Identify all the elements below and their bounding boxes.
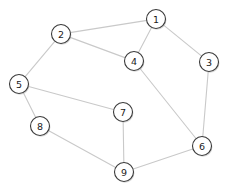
graph-diagram: 123456789 [0,0,228,193]
graph-node[interactable]: 8 [31,117,51,137]
graph-node[interactable]: 6 [193,137,213,157]
graph-edge [48,130,116,167]
node-circle[interactable] [31,117,50,136]
graph-node[interactable]: 9 [115,163,135,183]
graph-edge [25,41,55,77]
node-circle[interactable] [200,53,219,72]
node-circle[interactable] [125,52,144,71]
node-circle[interactable] [114,103,133,122]
graph-node[interactable]: 4 [125,52,145,72]
node-circle[interactable] [193,137,212,156]
edges-layer [23,20,208,169]
node-circle[interactable] [10,75,29,94]
graph-edge [23,92,36,118]
graph-edge [123,121,124,163]
graph-edge [138,27,152,53]
graph-node[interactable]: 1 [147,10,167,30]
graph-edge [69,37,125,58]
nodes-layer: 123456789 [10,10,220,183]
node-circle[interactable] [147,10,166,29]
graph-node[interactable]: 7 [114,103,134,123]
graph-edge [140,68,197,139]
graph-edge [70,20,147,32]
node-circle[interactable] [115,163,134,182]
graph-edge [203,71,209,137]
graph-edge [163,25,202,57]
graph-node[interactable]: 5 [10,75,30,95]
graph-edge [133,149,194,169]
graph-edge [28,86,115,109]
graph-node[interactable]: 3 [200,53,220,73]
node-circle[interactable] [52,25,71,44]
